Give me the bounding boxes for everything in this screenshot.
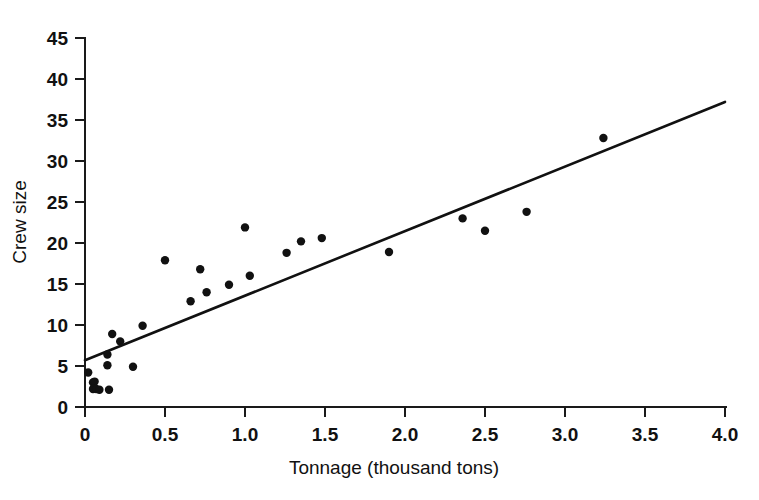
y-tick-label: 0 [57,397,68,418]
y-tick-label: 15 [47,274,69,295]
data-point-marker [103,361,111,369]
y-tick-label: 35 [47,110,69,131]
data-point-marker [522,208,530,216]
x-tick-label: 2.0 [392,424,418,445]
data-point-marker [385,248,393,256]
x-tick-label: 3.5 [632,424,659,445]
data-points [84,134,608,394]
x-tick-label: 0 [80,424,91,445]
x-tick-label: 4.0 [712,424,738,445]
x-tick-label: 2.5 [472,424,499,445]
data-point-marker [458,214,466,222]
scatter-plot: 051015202530354045 00.51.01.52.02.53.03.… [0,0,759,500]
x-tick-label: 0.5 [152,424,179,445]
y-tick-label: 30 [47,151,68,172]
data-point-marker [599,134,607,142]
data-point-marker [318,234,326,242]
x-axis-title: Tonnage (thousand tons) [289,457,499,478]
data-point-marker [84,368,92,376]
y-tick-label: 10 [47,315,68,336]
data-point-marker [186,297,194,305]
x-axis-ticks: 00.51.01.52.02.53.03.54.0 [80,407,739,445]
data-point-marker [241,223,249,231]
data-point-marker [90,377,98,385]
data-point-marker [481,227,489,235]
x-tick-label: 1.0 [232,424,258,445]
data-point-marker [297,237,305,245]
data-point-marker [246,272,254,280]
data-point-marker [161,256,169,264]
data-point-marker [103,350,111,358]
regression-line [85,102,725,360]
y-tick-label: 20 [47,233,68,254]
data-point-marker [116,337,124,345]
y-tick-label: 5 [57,356,68,377]
data-point-marker [108,330,116,338]
data-point-marker [196,265,204,273]
x-tick-label: 3.0 [552,424,578,445]
data-point-marker [105,386,113,394]
y-tick-label: 40 [47,69,68,90]
data-point-marker [129,363,137,371]
y-tick-label: 45 [47,28,69,49]
y-axis-ticks: 051015202530354045 [47,28,85,418]
figure-container: 051015202530354045 00.51.01.52.02.53.03.… [0,0,759,500]
data-point-marker [95,386,103,394]
data-point-marker [202,288,210,296]
data-point-marker [138,322,146,330]
regression-line-segment [85,102,725,360]
data-point-marker [225,281,233,289]
data-point-marker [282,249,290,257]
x-tick-label: 1.5 [312,424,339,445]
y-tick-label: 25 [47,192,69,213]
y-axis-title: Crew size [9,180,30,263]
